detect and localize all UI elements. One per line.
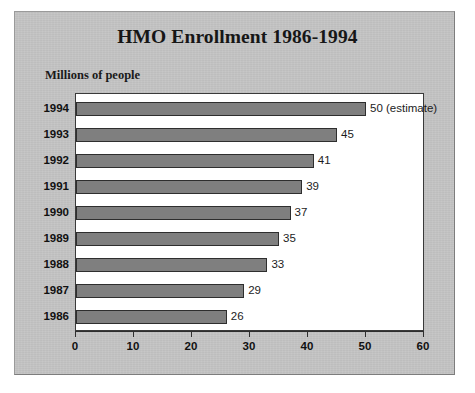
x-tick-label-30: 30 <box>229 340 269 352</box>
bars-container: 50 (estimate)4541393735332926 <box>76 94 423 330</box>
bar-row: 41 <box>76 148 423 174</box>
page-title: HMO Enrollment 1986-1994 <box>0 26 475 48</box>
category-label-1986: 1986 <box>9 309 69 323</box>
bar-1990 <box>76 206 291 220</box>
bar-1986 <box>76 310 227 324</box>
bar-row: 29 <box>76 278 423 304</box>
bar-value-label-1989: 35 <box>283 231 296 245</box>
bar-value-label-1993: 45 <box>341 127 354 141</box>
axis-units-label: Millions of people <box>45 68 140 83</box>
category-label-1987: 1987 <box>9 283 69 297</box>
x-tick-40 <box>307 331 308 337</box>
bar-value-label-1992: 41 <box>318 153 331 167</box>
bar-row: 26 <box>76 304 423 330</box>
bar-value-label-1994: 50 (estimate) <box>370 101 437 115</box>
chart-screenshot: HMO Enrollment 1986-1994 Millions of peo… <box>0 0 475 393</box>
bar-1993 <box>76 128 337 142</box>
category-label-1994: 1994 <box>9 101 69 115</box>
x-tick-0 <box>75 331 76 337</box>
category-label-1991: 1991 <box>9 179 69 193</box>
category-label-1989: 1989 <box>9 231 69 245</box>
category-label-1988: 1988 <box>9 257 69 271</box>
x-tick-10 <box>133 331 134 337</box>
x-tick-label-50: 50 <box>345 340 385 352</box>
x-tick-50 <box>365 331 366 337</box>
bar-1989 <box>76 232 279 246</box>
bar-1991 <box>76 180 302 194</box>
x-tick-label-10: 10 <box>113 340 153 352</box>
bar-value-label-1988: 33 <box>271 257 284 271</box>
x-tick-label-20: 20 <box>171 340 211 352</box>
x-tick-label-0: 0 <box>55 340 95 352</box>
category-label-1990: 1990 <box>9 205 69 219</box>
x-tick-label-60: 60 <box>403 340 443 352</box>
bar-row: 33 <box>76 252 423 278</box>
bar-1987 <box>76 284 244 298</box>
x-tick-30 <box>249 331 250 337</box>
bar-row: 39 <box>76 174 423 200</box>
x-tick-label-40: 40 <box>287 340 327 352</box>
bar-value-label-1991: 39 <box>306 179 319 193</box>
category-label-1993: 1993 <box>9 127 69 141</box>
plot-area: 50 (estimate)4541393735332926 <box>75 93 424 331</box>
bar-row: 37 <box>76 200 423 226</box>
x-tick-60 <box>423 331 424 337</box>
bar-value-label-1986: 26 <box>231 309 244 323</box>
bar-row: 45 <box>76 122 423 148</box>
bar-value-label-1987: 29 <box>248 283 261 297</box>
bar-row: 50 (estimate) <box>76 96 423 122</box>
bar-1988 <box>76 258 267 272</box>
category-label-1992: 1992 <box>9 153 69 167</box>
bar-1994 <box>76 102 366 116</box>
bar-row: 35 <box>76 226 423 252</box>
x-tick-20 <box>191 331 192 337</box>
bar-value-label-1990: 37 <box>295 205 308 219</box>
bar-1992 <box>76 154 314 168</box>
